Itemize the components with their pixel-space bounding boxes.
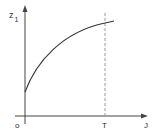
x-axis-arrow-icon [141, 114, 148, 119]
y-axis-label: z1 [9, 10, 19, 23]
origin-label: o [15, 121, 20, 130]
y-axis-arrow-icon [23, 5, 28, 12]
x-axis-label: J [144, 121, 148, 130]
z1-curve [25, 21, 114, 92]
diagram: z1 o T J [0, 0, 158, 138]
t-label: T [102, 121, 107, 130]
